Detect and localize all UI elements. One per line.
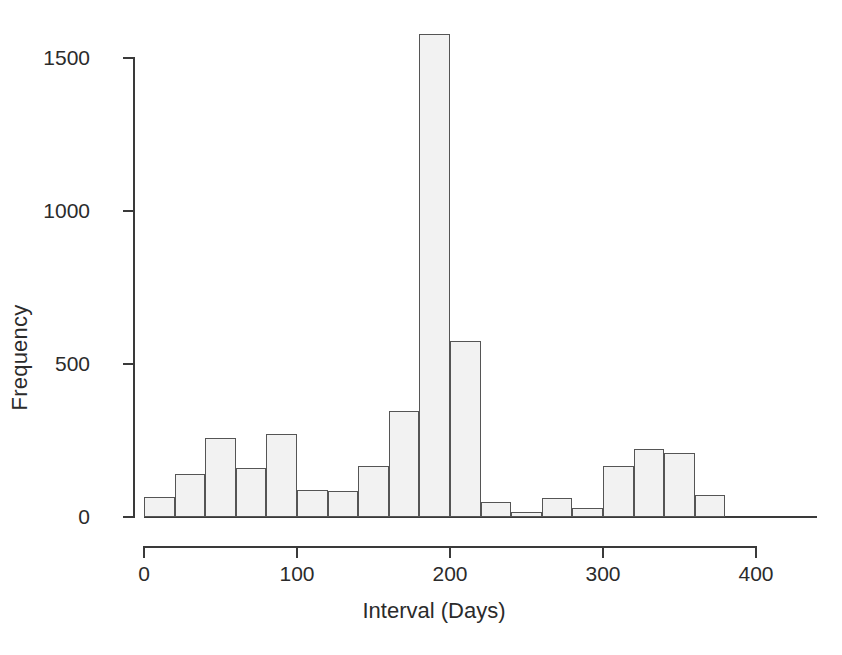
histogram-bar bbox=[266, 434, 297, 517]
histogram-bar bbox=[236, 468, 267, 517]
histogram-bar bbox=[419, 34, 450, 517]
histogram-bar bbox=[603, 466, 634, 517]
x-axis-tick bbox=[296, 546, 298, 558]
histogram-bar bbox=[695, 495, 726, 517]
x-axis-tick-label: 200 bbox=[432, 562, 467, 586]
histogram-bar bbox=[205, 438, 236, 517]
histogram-bar bbox=[144, 497, 175, 517]
x-axis-tick-label: 0 bbox=[138, 562, 150, 586]
histogram-bar bbox=[481, 502, 512, 517]
x-axis-tick bbox=[449, 546, 451, 558]
x-axis-tick-label: 400 bbox=[738, 562, 773, 586]
histogram-figure: Frequency 050010001500 0100200300400 Int… bbox=[0, 0, 842, 655]
x-axis: 0100200300400 bbox=[0, 546, 842, 576]
histogram-bar bbox=[297, 490, 328, 517]
x-axis-tick-label: 100 bbox=[279, 562, 314, 586]
histogram-bar bbox=[389, 411, 420, 517]
x-axis-tick bbox=[755, 546, 757, 558]
histogram-bar bbox=[450, 341, 481, 517]
x-axis-title: Interval (Days) bbox=[144, 598, 724, 624]
x-axis-tick-label: 300 bbox=[585, 562, 620, 586]
histogram-bar bbox=[542, 498, 573, 517]
x-axis-tick bbox=[602, 546, 604, 558]
histogram-bar bbox=[328, 491, 359, 517]
histogram-bar bbox=[358, 466, 389, 517]
histogram-bar bbox=[511, 512, 542, 517]
histogram-bar bbox=[175, 474, 206, 517]
histogram-bar bbox=[572, 508, 603, 517]
histogram-bar bbox=[634, 449, 665, 517]
histogram-bar bbox=[664, 453, 695, 517]
x-axis-tick bbox=[143, 546, 145, 558]
